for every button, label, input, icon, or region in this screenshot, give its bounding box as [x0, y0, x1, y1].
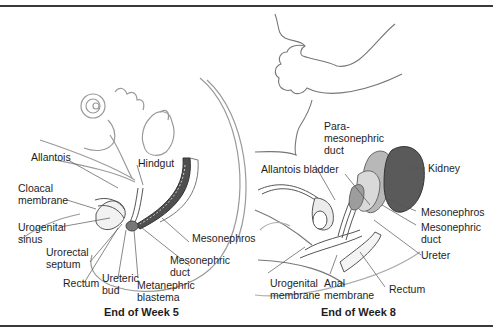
- label-ureteric-bud-line1: Ureteric: [102, 272, 139, 284]
- label-ureteric-bud-line2: bud: [102, 284, 120, 296]
- label-mesonephric-duct-line2: duct: [170, 266, 190, 278]
- label-mesonephric-duct-week8-line1: Mesonephric: [421, 221, 481, 233]
- label-mesonephros-week5: Mesonephros: [192, 232, 256, 244]
- label-cloacal-membrane-line1: Cloacal: [18, 182, 53, 194]
- label-mesonephros-week8: Mesonephros: [421, 206, 485, 218]
- label-urorectal-septum-line1: Urorectal: [46, 246, 89, 258]
- label-paramesonephric-duct-line2: mesonephric: [324, 132, 384, 144]
- label-allantois-bladder: Allantois bladder: [261, 163, 339, 175]
- caption-week8: End of Week 8: [321, 306, 396, 318]
- label-urogenital-sinus-line2: sinus: [18, 233, 43, 245]
- label-paramesonephric-duct-line3: duct: [324, 144, 344, 156]
- label-cloacal-membrane-line2: membrane: [18, 194, 68, 206]
- label-ureter: Ureter: [421, 249, 450, 261]
- label-anal-membrane-line2: membrane: [324, 289, 374, 301]
- caption-week5: End of Week 5: [104, 306, 179, 318]
- label-rectum: Rectum: [63, 277, 99, 289]
- label-metanephric-blastema-line1: Metanephric: [137, 279, 195, 291]
- label-paramesonephric-duct-line1: Para-: [324, 120, 350, 132]
- label-urogenital-membrane-line1: Urogenital: [270, 277, 318, 289]
- label-metanephric-blastema-line2: blastema: [137, 291, 180, 303]
- label-anal-membrane-line1: Anal: [324, 277, 345, 289]
- label-kidney: Kidney: [428, 162, 460, 174]
- label-urogenital-sinus-line1: Urogenital: [18, 221, 66, 233]
- label-hindgut: Hindgut: [138, 157, 174, 169]
- label-urogenital-membrane-line2: membrane: [270, 289, 320, 301]
- label-mesonephric-duct-line1: Mesonephric: [170, 254, 230, 266]
- label-allantois: Allantois: [31, 151, 71, 163]
- label-urorectal-septum-line2: septum: [46, 258, 80, 270]
- label-rectum-week8: Rectum: [389, 283, 425, 295]
- label-mesonephric-duct-week8-line2: duct: [421, 233, 441, 245]
